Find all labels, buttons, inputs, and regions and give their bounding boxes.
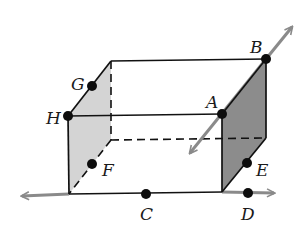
point-E <box>242 158 252 168</box>
point-B <box>261 54 271 64</box>
label-G: G <box>71 74 85 94</box>
prism-diagram: A B C D E F G H <box>0 0 303 233</box>
label-H: H <box>45 108 62 128</box>
point-D <box>243 188 253 198</box>
label-F: F <box>101 160 115 180</box>
label-C: C <box>140 204 153 224</box>
label-E: E <box>255 160 269 180</box>
point-C <box>141 189 151 199</box>
point-H <box>63 111 73 121</box>
label-A: A <box>204 92 218 112</box>
line-AB-top <box>266 27 292 59</box>
point-A <box>217 109 227 119</box>
label-D: D <box>240 204 255 224</box>
label-B: B <box>249 37 263 57</box>
point-G <box>87 81 97 91</box>
point-F <box>87 159 97 169</box>
line-CD <box>22 194 69 196</box>
